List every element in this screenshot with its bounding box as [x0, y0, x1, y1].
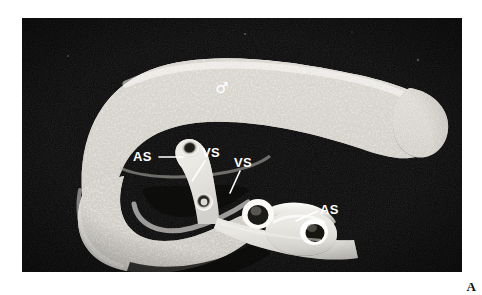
electron-micrograph-image	[22, 18, 462, 272]
figure-panel: ♂ AS VS VS AS A	[0, 0, 482, 295]
plate-vignette	[22, 18, 462, 272]
panel-letter: A	[467, 280, 476, 293]
micrograph-canvas	[22, 18, 462, 272]
